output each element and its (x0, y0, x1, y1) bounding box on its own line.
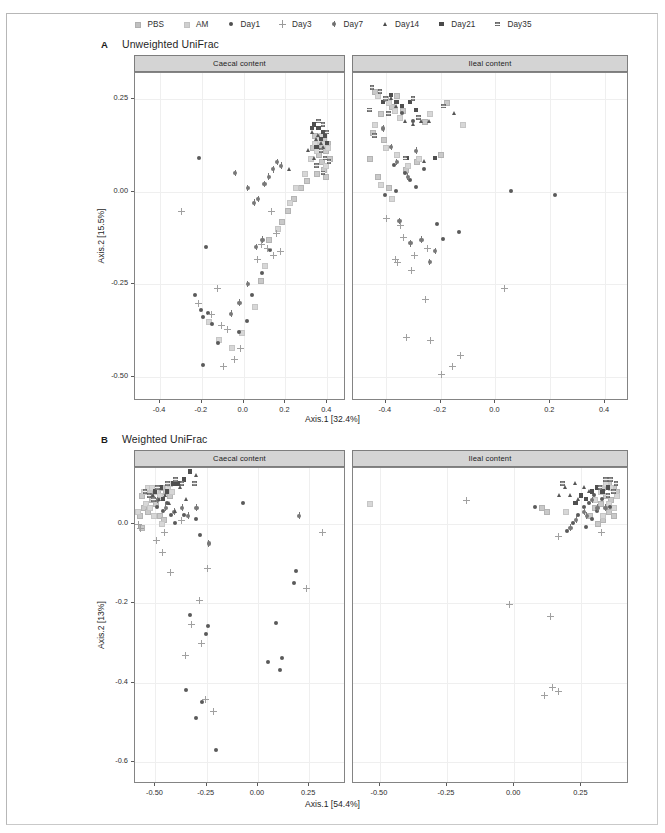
data-point-day35 (321, 171, 326, 176)
y-tick-label: 0.25 (90, 93, 128, 102)
data-point-day14 (310, 130, 314, 134)
data-point-am (135, 509, 141, 515)
y-tick-label: 0.0 (90, 518, 128, 527)
data-point-day1 (193, 293, 197, 297)
data-point-day21 (165, 489, 169, 493)
x-tick-label: 0.2 (266, 405, 302, 414)
data-point-day1 (214, 748, 218, 752)
gridline-horizontal (135, 99, 344, 100)
data-point-am (392, 108, 398, 114)
data-point-day21 (590, 489, 594, 493)
data-point-day1 (216, 341, 220, 345)
data-point-day3 (400, 234, 407, 241)
plus-icon (278, 20, 287, 29)
data-point-day1 (260, 271, 264, 275)
y-tick-label: 0.00 (90, 186, 128, 195)
gridline-vertical (258, 468, 259, 782)
data-point-day1 (600, 497, 604, 501)
data-point-day3 (268, 208, 275, 215)
data-point-day3 (178, 208, 185, 215)
data-point-day35 (611, 489, 616, 494)
data-point-day35 (165, 481, 170, 486)
gridline-horizontal (353, 284, 627, 285)
legend-item-day7: Day7 (330, 20, 364, 29)
data-point-day3 (411, 252, 418, 259)
data-point-day3 (220, 363, 227, 370)
data-point-day1 (197, 156, 201, 160)
data-point-day1 (553, 193, 557, 197)
data-point-am (287, 200, 293, 206)
data-point-day14 (427, 119, 431, 123)
gridline-vertical (386, 73, 387, 399)
x-tick-label: 0.25 (562, 788, 598, 797)
data-point-day21 (600, 489, 604, 493)
legend-label: Day14 (395, 20, 419, 29)
data-point-day3 (303, 585, 310, 592)
data-point-day7 (163, 505, 168, 510)
x-tick (440, 400, 441, 403)
data-point-day35 (560, 481, 565, 486)
data-point-am (427, 111, 433, 117)
data-point-day3 (424, 245, 431, 252)
data-point-day3 (501, 285, 508, 292)
legend-label: PBS (147, 20, 164, 29)
data-point-day1 (237, 330, 241, 334)
data-point-day7 (180, 505, 185, 510)
data-point-day35 (411, 96, 416, 101)
data-point-day35 (180, 481, 185, 486)
y-tick (131, 682, 134, 683)
data-point-day3 (449, 363, 456, 370)
legend-item-day14: Day14 (381, 20, 419, 29)
data-point-am (563, 509, 569, 515)
y-tick-label: -0.6 (90, 756, 128, 765)
data-point-day3 (555, 688, 562, 695)
x-tick (257, 783, 258, 786)
x-tick (580, 783, 581, 786)
data-point-day1 (278, 668, 282, 672)
gridline-vertical (380, 468, 381, 782)
data-point-day7 (419, 237, 424, 242)
data-point-am (375, 93, 381, 99)
facet-label: Caecal content (213, 454, 266, 463)
data-point-pbs (367, 156, 373, 162)
legend-label: Day21 (451, 20, 475, 29)
data-point-day1 (155, 505, 159, 509)
y-axis-title: Axis.2 [15.5%] (96, 209, 106, 264)
data-point-pbs (394, 93, 400, 99)
data-point-day14 (389, 96, 393, 100)
data-point-day14 (573, 481, 577, 485)
legend-item-am: AM (182, 20, 208, 29)
legend-item-pbs: PBS (133, 20, 164, 29)
square-open-icon (182, 20, 191, 29)
legend-item-day3: Day3 (278, 20, 312, 29)
gridline-vertical (447, 468, 448, 782)
data-point-day7 (245, 282, 250, 287)
circle-filled-icon (227, 20, 236, 29)
square-crossed-icon (493, 20, 502, 29)
data-point-day35 (403, 156, 408, 161)
panel-tag-b: B (101, 434, 108, 445)
data-point-day3 (214, 285, 221, 292)
data-point-day7 (186, 513, 191, 518)
data-point-day21 (159, 485, 163, 489)
data-point-day3 (204, 565, 211, 572)
x-tick (201, 400, 202, 403)
data-point-day35 (327, 159, 332, 164)
gridline-vertical (285, 73, 286, 399)
data-point-day3 (224, 326, 231, 333)
data-point-am (159, 521, 165, 527)
legend-label: Day7 (344, 20, 364, 29)
data-point-day35 (603, 477, 608, 482)
y-tick (131, 602, 134, 603)
gridline-vertical (495, 73, 496, 399)
data-point-day3 (237, 345, 244, 352)
data-point-day1 (201, 363, 205, 367)
x-tick (446, 783, 447, 786)
x-tick-label: -0.50 (136, 788, 172, 797)
data-point-day1 (400, 111, 404, 115)
gridline-vertical (309, 468, 310, 782)
gridline-horizontal (135, 524, 344, 525)
square-filled-icon (437, 20, 446, 29)
data-point-pbs (266, 237, 272, 243)
data-point-day3 (208, 311, 215, 318)
